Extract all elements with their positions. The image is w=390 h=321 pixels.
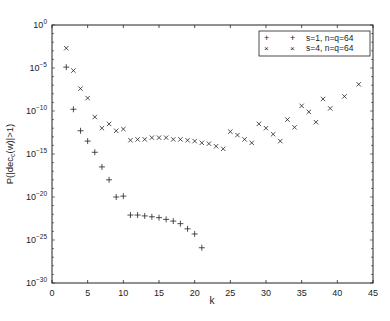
- plus-marker: [85, 138, 91, 144]
- cross-marker: [185, 138, 189, 142]
- svg-text:10: 10: [118, 288, 128, 298]
- cross-marker: [314, 120, 318, 124]
- cross-marker: [328, 106, 332, 110]
- cross-marker: [278, 139, 282, 143]
- cross-marker: [114, 129, 118, 133]
- legend: + + s=1, n=q=64 × × s=4, n=q=64: [259, 31, 370, 56]
- chart: 051015202530354045 10010−510−1010−1510−2…: [0, 0, 390, 321]
- svg-text:40: 40: [332, 288, 342, 298]
- plus-marker: [63, 64, 69, 70]
- svg-text:25: 25: [225, 288, 235, 298]
- cross-marker: [178, 137, 182, 141]
- cross-marker: [271, 132, 275, 136]
- cross-marker: [221, 147, 225, 151]
- cross-marker: [164, 135, 168, 139]
- cross-marker: [307, 110, 311, 114]
- cross-marker: [93, 115, 97, 119]
- cross-marker: [207, 141, 211, 145]
- cross-marker: [192, 139, 196, 143]
- svg-text:10−20: 10−20: [26, 190, 47, 202]
- plus-marker: [135, 212, 141, 218]
- cross-marker: [342, 94, 346, 98]
- plus-marker: [70, 106, 76, 112]
- svg-text:10−30: 10−30: [26, 276, 47, 288]
- cross-marker: [128, 138, 132, 142]
- plus-marker: [149, 214, 155, 220]
- svg-text:0: 0: [49, 288, 54, 298]
- cross-marker: [78, 86, 82, 90]
- cross-marker: [107, 122, 111, 126]
- svg-text:100: 100: [33, 18, 47, 30]
- plus-marker: [99, 164, 105, 170]
- plus-marker: [142, 213, 148, 219]
- cross-marker: [121, 127, 125, 131]
- cross-marker: [150, 135, 154, 139]
- svg-text:s=1, n=q=64: s=1, n=q=64: [306, 33, 354, 43]
- svg-text:30: 30: [261, 288, 271, 298]
- plus-marker: [106, 177, 112, 183]
- svg-text:×: ×: [290, 44, 295, 53]
- cross-marker: [228, 129, 232, 133]
- cross-marker: [143, 137, 147, 141]
- plus-marker: [156, 215, 162, 221]
- svg-text:+: +: [264, 33, 269, 43]
- cross-marker: [250, 141, 254, 145]
- plus-marker: [170, 218, 176, 224]
- cross-marker: [64, 46, 68, 50]
- plus-marker: [199, 245, 205, 251]
- svg-text:15: 15: [154, 288, 164, 298]
- svg-text:10−25: 10−25: [26, 233, 47, 245]
- cross-marker: [299, 104, 303, 108]
- plus-marker: [192, 231, 198, 237]
- cross-marker: [292, 125, 296, 129]
- cross-marker: [200, 141, 204, 145]
- svg-text:10−15: 10−15: [26, 147, 47, 159]
- cross-marker: [100, 126, 104, 130]
- plus-marker: [127, 212, 133, 218]
- x-axis-label: k: [210, 295, 216, 306]
- plus-marker: [113, 194, 119, 200]
- plus-marker: [185, 226, 191, 232]
- svg-text:35: 35: [297, 288, 307, 298]
- svg-text:45: 45: [368, 288, 378, 298]
- data-points: [63, 46, 361, 251]
- svg-text:+: +: [290, 33, 295, 43]
- cross-marker: [242, 137, 246, 141]
- cross-marker: [257, 122, 261, 126]
- plus-marker: [78, 128, 84, 134]
- plus-marker: [177, 221, 183, 227]
- svg-text:P(|decc(w)|>1): P(|decc(w)|>1): [4, 124, 16, 184]
- cross-marker: [235, 133, 239, 137]
- plot-frame: [52, 25, 373, 283]
- svg-text:5: 5: [85, 288, 90, 298]
- y-axis-label: P(|decc(w)|>1): [4, 124, 16, 184]
- cross-marker: [357, 82, 361, 86]
- cross-marker: [135, 137, 139, 141]
- cross-marker: [214, 144, 218, 148]
- cross-marker: [85, 96, 89, 100]
- svg-text:10−5: 10−5: [30, 61, 48, 73]
- plus-marker: [163, 216, 169, 222]
- cross-marker: [71, 68, 75, 72]
- plus-marker: [92, 149, 98, 155]
- plus-marker: [120, 193, 126, 199]
- cross-marker: [285, 117, 289, 121]
- cross-marker: [321, 97, 325, 101]
- svg-text:s=4, n=q=64: s=4, n=q=64: [306, 43, 354, 53]
- svg-text:10−10: 10−10: [26, 104, 47, 116]
- svg-text:20: 20: [190, 288, 200, 298]
- cross-marker: [171, 137, 175, 141]
- cross-marker: [264, 126, 268, 130]
- svg-text:×: ×: [264, 44, 269, 53]
- x-axis-ticks: 051015202530354045: [49, 25, 378, 298]
- cross-marker: [157, 135, 161, 139]
